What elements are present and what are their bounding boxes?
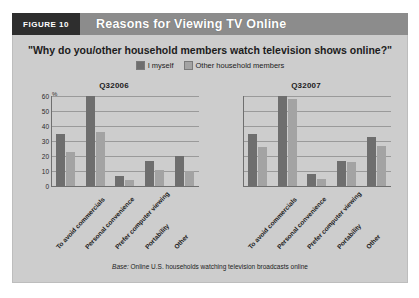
bar-group xyxy=(140,96,170,186)
base-note-text: Online U.S. households watching televisi… xyxy=(131,263,308,270)
figure-container: FIGURE 10 Reasons for Viewing TV Online … xyxy=(0,0,419,298)
y-axis-tick-label: 60 xyxy=(42,93,49,100)
charts-area: Q32006 % 0102030405060 To avoid commerci… xyxy=(13,79,407,254)
bar-group xyxy=(169,96,199,186)
bar xyxy=(377,146,386,187)
bar xyxy=(155,170,164,187)
legend-swatch-icon xyxy=(184,61,193,70)
bar xyxy=(248,134,257,187)
y-axis-tick-label: 10 xyxy=(42,168,49,175)
bar-group xyxy=(361,96,391,186)
bar xyxy=(317,179,326,187)
legend-label-series-2: Other household members xyxy=(196,61,285,70)
bar xyxy=(125,180,134,186)
bar xyxy=(288,99,297,186)
bar xyxy=(347,162,356,186)
bar xyxy=(66,152,75,187)
bar-group xyxy=(332,96,362,186)
y-axis-tick-label: 40 xyxy=(42,123,49,130)
bar xyxy=(115,176,124,187)
bar xyxy=(337,161,346,187)
x-axis-line xyxy=(51,186,199,187)
bar xyxy=(175,156,184,186)
bar xyxy=(185,171,194,186)
bar xyxy=(367,137,376,187)
legend-swatch-icon xyxy=(136,61,145,70)
chart-subtitle: "Why do you/other household members watc… xyxy=(13,44,407,56)
x-axis-labels-1: To avoid commercialsPersonal convenience… xyxy=(243,188,391,250)
legend-item-series-2: Other household members xyxy=(184,61,285,70)
y-axis-tick-label: 0 xyxy=(45,183,49,190)
x-axis-labels-0: To avoid commercialsPersonal convenience… xyxy=(51,188,199,250)
figure-header: FIGURE 10 Reasons for Viewing TV Online xyxy=(12,13,408,35)
bar xyxy=(96,132,105,186)
figure-number-badge: FIGURE 10 xyxy=(12,13,80,35)
chart-title: Q32006 xyxy=(21,81,207,90)
y-axis-tick-label: 50 xyxy=(42,108,49,115)
bar xyxy=(56,134,65,187)
base-note: Base: Online U.S. households watching te… xyxy=(13,263,407,270)
chart-panel: "Why do you/other household members watc… xyxy=(12,35,408,283)
base-note-prefix: Base: xyxy=(112,263,129,270)
bar xyxy=(258,147,267,186)
legend-item-series-1: I myself xyxy=(136,61,174,70)
y-axis-labels-0: 0102030405060 xyxy=(23,96,49,186)
y-axis-tick-label: 30 xyxy=(42,138,49,145)
chart-q32007: Q32007 0102030405060 To avoid commercial… xyxy=(213,79,399,254)
x-axis-line xyxy=(243,186,391,187)
legend-label-series-1: I myself xyxy=(148,61,174,70)
bar xyxy=(86,96,95,186)
bar xyxy=(145,161,154,187)
bar-group xyxy=(273,96,303,186)
bars-0 xyxy=(51,96,199,186)
bar xyxy=(307,174,316,186)
bar-group xyxy=(81,96,111,186)
bars-1 xyxy=(243,96,391,186)
chart-legend: I myself Other household members xyxy=(13,61,407,70)
bar-group xyxy=(243,96,273,186)
bar-group xyxy=(110,96,140,186)
bar xyxy=(278,96,287,186)
figure-title: Reasons for Viewing TV Online xyxy=(80,13,286,35)
y-axis-tick-label: 20 xyxy=(42,153,49,160)
chart-title: Q32007 xyxy=(213,81,399,90)
bar-group xyxy=(51,96,81,186)
chart-q32006: Q32006 % 0102030405060 To avoid commerci… xyxy=(21,79,207,254)
bar-group xyxy=(302,96,332,186)
